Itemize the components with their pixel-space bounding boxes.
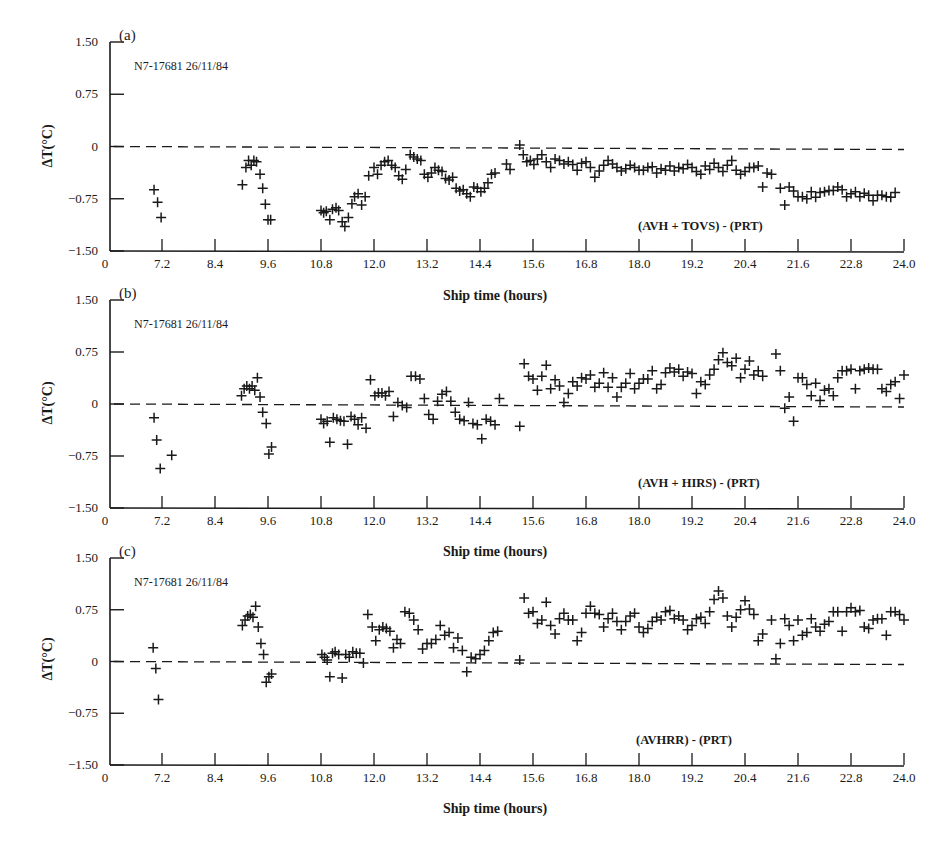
plus-marker-icon <box>400 607 410 617</box>
plus-marker-icon <box>594 166 604 176</box>
plus-marker-icon <box>455 414 465 424</box>
plus-marker-icon <box>555 614 565 624</box>
plus-marker-icon <box>267 442 277 452</box>
plus-marker-icon <box>457 645 467 655</box>
zero-reference-line <box>114 147 904 150</box>
data-points <box>149 140 900 232</box>
plus-marker-icon <box>253 622 263 632</box>
plus-marker-icon <box>249 155 259 165</box>
plus-marker-icon <box>256 639 266 649</box>
plus-marker-icon <box>616 625 626 635</box>
plus-marker-icon <box>608 608 618 618</box>
plus-marker-icon <box>864 190 874 200</box>
plus-marker-icon <box>541 157 551 167</box>
plus-marker-icon <box>466 652 476 662</box>
x-tick-label: 19.2 <box>681 513 704 528</box>
x-tick-label: 16.8 <box>575 513 598 528</box>
y-tick-label: 0 <box>92 654 99 669</box>
plus-marker-icon <box>837 626 847 636</box>
plus-marker-icon <box>643 374 653 384</box>
plus-marker-icon <box>585 601 595 611</box>
plus-marker-icon <box>237 621 247 631</box>
y-axis-title: ΔT(°C) <box>40 637 56 680</box>
plus-marker-icon <box>811 192 821 202</box>
x-tick-label: 19.2 <box>681 770 704 785</box>
plus-marker-icon <box>371 636 381 646</box>
plus-marker-icon <box>468 418 478 428</box>
x-tick-label: 8.4 <box>207 513 224 528</box>
y-tick-label: 1.50 <box>75 34 98 49</box>
panel-label: (b) <box>119 285 137 302</box>
series-label: (AVH + HIRS) - (PRT) <box>638 476 760 490</box>
plus-marker-icon <box>401 164 411 174</box>
plus-marker-icon <box>594 610 604 620</box>
plus-marker-icon <box>736 373 746 383</box>
plus-marker-icon <box>550 375 560 385</box>
y-tick-label: −0.75 <box>68 191 98 206</box>
plus-marker-icon <box>771 349 781 359</box>
panel-label: (a) <box>119 27 136 44</box>
plus-marker-icon <box>435 621 445 631</box>
x-axis <box>110 508 904 509</box>
x-tick-label: 13.2 <box>416 256 439 271</box>
plus-marker-icon <box>899 615 909 625</box>
plus-marker-icon <box>590 608 600 618</box>
plus-marker-icon <box>156 213 166 223</box>
plus-marker-icon <box>572 165 582 175</box>
y-tick-label: 1.50 <box>75 292 98 307</box>
x-tick-label: 12.0 <box>363 256 386 271</box>
plus-marker-icon <box>532 385 542 395</box>
plus-marker-icon <box>519 593 529 603</box>
plus-marker-icon <box>409 615 419 625</box>
plus-marker-icon <box>481 414 491 424</box>
plus-marker-icon <box>846 364 856 374</box>
plus-marker-icon <box>559 608 569 618</box>
x-axis <box>110 251 904 252</box>
x-tick-label: 8.4 <box>207 256 224 271</box>
x-tick-label: 16.8 <box>575 256 598 271</box>
x-tick-label: 14.4 <box>469 513 492 528</box>
plus-marker-icon <box>572 636 582 646</box>
plus-marker-icon <box>820 187 830 197</box>
run-label: N7-17681 26/11/84 <box>134 317 228 331</box>
plus-marker-icon <box>563 389 573 399</box>
plus-marker-icon <box>266 215 276 225</box>
plus-marker-icon <box>581 157 591 167</box>
plus-marker-icon <box>740 364 750 374</box>
plus-marker-icon <box>550 629 560 639</box>
x-tick-label: 18.0 <box>628 513 651 528</box>
x-tick-label: 8.4 <box>207 770 224 785</box>
plus-marker-icon <box>152 435 162 445</box>
plus-marker-icon <box>731 612 741 622</box>
plus-marker-icon <box>388 411 398 421</box>
plus-marker-icon <box>237 180 247 190</box>
plus-marker-icon <box>252 373 262 383</box>
plus-marker-icon <box>881 630 891 640</box>
plus-marker-icon <box>718 348 728 358</box>
plus-marker-icon <box>758 182 768 192</box>
plus-marker-icon <box>736 605 746 615</box>
plus-marker-icon <box>780 200 790 210</box>
plus-marker-icon <box>811 378 821 388</box>
x-axis-title: Ship time (hours) <box>443 288 548 304</box>
x-tick-label: 12.0 <box>363 770 386 785</box>
zero-reference-line <box>114 662 904 665</box>
plus-marker-icon <box>608 373 618 383</box>
x-tick-label: 14.4 <box>469 770 492 785</box>
figure-canvas: 1.500.750−0.75−1.5007.28.49.610.812.013.… <box>0 0 943 845</box>
plus-marker-icon <box>149 413 159 423</box>
plus-marker-icon <box>877 614 887 624</box>
x-tick-label: 15.6 <box>522 770 545 785</box>
y-axis-title: ΔT(°C) <box>40 124 56 167</box>
plus-marker-icon <box>758 629 768 639</box>
plus-marker-icon <box>877 190 887 200</box>
plus-marker-icon <box>722 611 732 621</box>
plus-marker-icon <box>705 370 715 380</box>
plus-marker-icon <box>855 605 865 615</box>
plus-marker-icon <box>780 614 790 624</box>
x-tick-label: 24.0 <box>893 256 916 271</box>
plus-marker-icon <box>418 644 428 654</box>
x-tick-label: 18.0 <box>628 256 651 271</box>
plus-marker-icon <box>824 384 834 394</box>
x-tick-label: 10.8 <box>310 256 333 271</box>
